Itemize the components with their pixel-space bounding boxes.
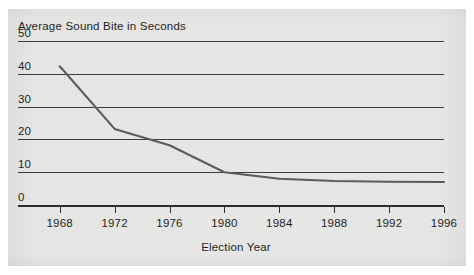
x-axis-title: Election Year [201,241,271,253]
plot-area: 50403020100 1968197219761980198419881992… [8,9,466,266]
chart-figure: Average Sound Bite in Seconds 5040302010… [0,0,474,275]
series-line-group [8,9,466,266]
chart-panel: Average Sound Bite in Seconds 5040302010… [8,9,466,266]
series-line-sound-bite [60,66,444,182]
